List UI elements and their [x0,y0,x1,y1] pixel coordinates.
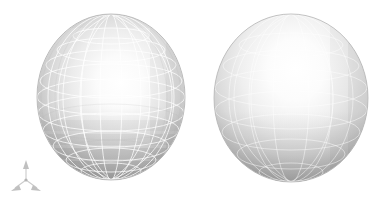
sphere-shadow-overlay [214,14,372,186]
fine-mesh-sphere [214,14,372,186]
coarse-mesh-sphere [37,14,190,184]
axis-origin [24,178,27,181]
sphere-render-canvas [0,0,386,207]
render-viewport [0,0,386,207]
x-axis [11,180,26,191]
coordinate-axis-triad [11,160,41,191]
y-axis [26,180,41,191]
z-axis [23,160,29,180]
